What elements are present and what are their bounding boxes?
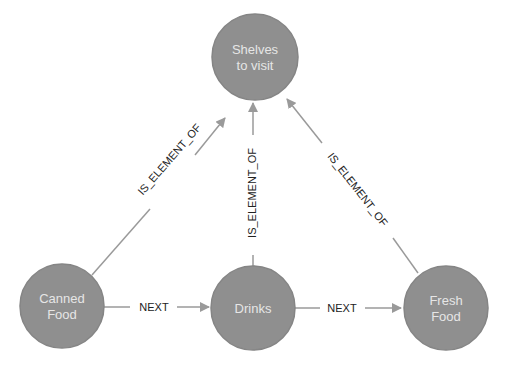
edge-drinks-is-element-of-shelves[interactable]: IS_ELEMENT_OF [246, 103, 258, 266]
edge-label: IS_ELEMENT_OF [135, 121, 203, 197]
edge-canned-is-element-of-shelves[interactable]: IS_ELEMENT_OF [92, 118, 225, 275]
node-label-line1: Shelves [232, 42, 279, 57]
edge-label: NEXT [327, 302, 357, 314]
edge-drinks-next-fresh[interactable]: NEXT [295, 302, 401, 314]
node-fresh-food[interactable]: Fresh Food [404, 266, 488, 350]
graph-diagram: IS_ELEMENT_OF IS_ELEMENT_OF IS_ELEMENT_O… [0, 0, 517, 372]
edge-label: IS_ELEMENT_OF [325, 150, 390, 228]
node-label-line1: Canned [39, 291, 85, 306]
node-label-line1: Fresh [429, 293, 462, 308]
node-label-line2: to visit [237, 58, 274, 73]
node-label-line2: Food [47, 307, 77, 322]
edge-label: NEXT [139, 301, 169, 313]
node-label-line1: Drinks [235, 301, 272, 316]
node-canned-food[interactable]: Canned Food [20, 264, 104, 348]
edge-canned-next-drinks[interactable]: NEXT [104, 301, 209, 313]
node-drinks[interactable]: Drinks [211, 266, 295, 350]
edge-label: IS_ELEMENT_OF [246, 148, 258, 238]
node-shelves-to-visit[interactable]: Shelves to visit [212, 14, 298, 100]
edge-fresh-is-element-of-shelves[interactable]: IS_ELEMENT_OF [287, 99, 418, 273]
graph-canvas: IS_ELEMENT_OF IS_ELEMENT_OF IS_ELEMENT_O… [0, 0, 517, 372]
node-label-line2: Food [431, 309, 461, 324]
